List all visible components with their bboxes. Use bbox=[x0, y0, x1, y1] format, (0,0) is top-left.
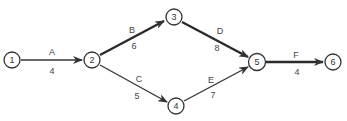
edge-d-activity: D bbox=[217, 26, 224, 36]
node-4-label: 4 bbox=[173, 101, 178, 111]
edge-c-activity: C bbox=[136, 74, 143, 84]
edge-d-duration: 8 bbox=[214, 43, 219, 53]
edge-e-duration: 7 bbox=[210, 90, 215, 100]
node-3: 3 bbox=[166, 9, 182, 25]
node-1: 1 bbox=[4, 52, 20, 68]
edge-e-activity: E bbox=[208, 75, 214, 85]
edge-e bbox=[184, 67, 248, 101]
edge-f-duration: 4 bbox=[294, 67, 299, 77]
node-6: 6 bbox=[325, 54, 341, 70]
edge-a-activity: A bbox=[49, 47, 55, 57]
node-6-label: 6 bbox=[330, 57, 335, 67]
network-diagram: A 4 B 6 C 5 D 8 E 7 F 4 1 2 3 4 5 6 bbox=[0, 0, 347, 121]
node-1-label: 1 bbox=[9, 55, 14, 65]
node-2-label: 2 bbox=[89, 55, 94, 65]
node-3-label: 3 bbox=[171, 12, 176, 22]
edge-f-activity: F bbox=[293, 50, 299, 60]
node-2: 2 bbox=[84, 52, 100, 68]
node-4: 4 bbox=[168, 98, 184, 114]
node-5-label: 5 bbox=[254, 57, 259, 67]
edge-b-duration: 6 bbox=[131, 41, 136, 51]
edge-a-duration: 4 bbox=[49, 66, 54, 76]
edge-b-activity: B bbox=[129, 25, 135, 35]
edge-c-duration: 5 bbox=[134, 91, 139, 101]
node-5: 5 bbox=[249, 54, 266, 71]
diagram-svg: A 4 B 6 C 5 D 8 E 7 F 4 1 2 3 4 5 6 bbox=[0, 0, 347, 121]
